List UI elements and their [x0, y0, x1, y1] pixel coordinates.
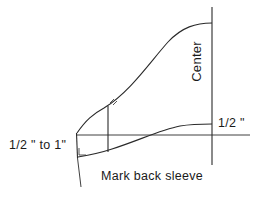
lower-underarm-curve — [78, 124, 212, 157]
sleeve-pattern-diagram: 1/2 " to 1" 1/2 " Center Mark back sleev… — [0, 0, 257, 197]
left-extension-line — [78, 158, 82, 187]
label-left-measure: 1/2 " to 1" — [9, 139, 66, 152]
label-center-line: Center — [190, 41, 203, 82]
diagram-caption: Mark back sleeve — [101, 170, 203, 183]
label-right-measure: 1/2 " — [218, 117, 245, 130]
left-vertical-edge — [77, 133, 78, 158]
right-angle-symbol-icon — [79, 148, 86, 155]
diagram-canvas — [0, 0, 257, 197]
